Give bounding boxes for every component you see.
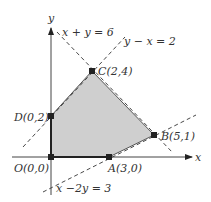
vertex-O-point <box>48 154 54 160</box>
feasible-region-diagram: y x x + y = 6 y − x = 2 x −2y = 3 O(0,0)… <box>0 0 211 202</box>
label-x-plus-y-6: x + y = 6 <box>62 26 114 39</box>
label-vertex-C: C(2,4) <box>98 65 133 78</box>
y-axis-label: y <box>47 12 55 25</box>
vertex-C-point <box>89 68 95 74</box>
label-vertex-A: A(3,0) <box>107 162 142 175</box>
label-vertex-B: B(5,1) <box>160 130 195 143</box>
label-vertex-D: D(0,2) <box>13 111 49 124</box>
vertex-B-point <box>151 132 157 138</box>
label-vertex-O: O(0,0) <box>14 162 49 175</box>
label-x-minus-2y-3: x −2y = 3 <box>56 182 111 195</box>
vertex-A-point <box>106 154 112 160</box>
x-axis-label: x <box>195 151 202 164</box>
label-y-minus-x-2: y − x = 2 <box>123 35 176 48</box>
